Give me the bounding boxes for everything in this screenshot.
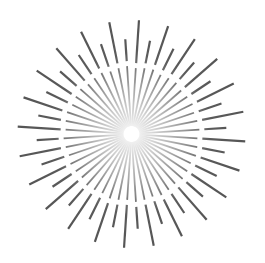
ray-segment [46, 181, 78, 209]
ray-segment [46, 92, 68, 103]
ray-segment [136, 207, 137, 229]
ray-segment [68, 194, 91, 229]
ray-segment [163, 49, 174, 71]
ray-segment [89, 198, 100, 220]
ray-segment [18, 127, 61, 130]
ray-segment [53, 174, 72, 187]
ray-segment [201, 157, 240, 170]
ray-segment [172, 194, 185, 213]
ray-segment [136, 20, 139, 63]
ray-segment [95, 203, 108, 242]
ray-segment [186, 182, 203, 197]
ray-segment [191, 81, 210, 94]
ray-segment [204, 128, 226, 129]
ray-segment [101, 44, 109, 67]
ray-segment [195, 165, 217, 176]
ray-segment [146, 41, 150, 64]
ray-segment [37, 139, 59, 140]
rays-group [18, 20, 246, 248]
ray-segment [180, 63, 195, 80]
ray-segment [37, 71, 72, 94]
ray-segment [69, 189, 84, 206]
ray-segment [202, 112, 243, 120]
ray-segment [24, 97, 63, 110]
ray-segment [154, 201, 162, 224]
ray-segment [20, 148, 61, 156]
ray-segment [125, 39, 126, 61]
ray-segment [146, 205, 154, 246]
canvas [0, 0, 265, 263]
ray-segment [124, 205, 127, 248]
ray-segment [38, 115, 61, 119]
ray-segment [42, 157, 65, 165]
ray-segment [172, 39, 195, 74]
ray-segment [155, 26, 168, 65]
sunburst-graphic [0, 0, 265, 263]
ray-segment [199, 103, 222, 111]
ray-segment [60, 71, 77, 86]
ray-segment [56, 48, 84, 80]
ray-segment [202, 139, 245, 142]
ray-segment [79, 55, 92, 74]
ray-segment [113, 205, 117, 228]
ray-segment [191, 174, 226, 197]
ray-segment [178, 187, 206, 219]
ray-segment [202, 148, 225, 152]
ray-segment [185, 59, 217, 87]
ray-segment [109, 22, 117, 63]
